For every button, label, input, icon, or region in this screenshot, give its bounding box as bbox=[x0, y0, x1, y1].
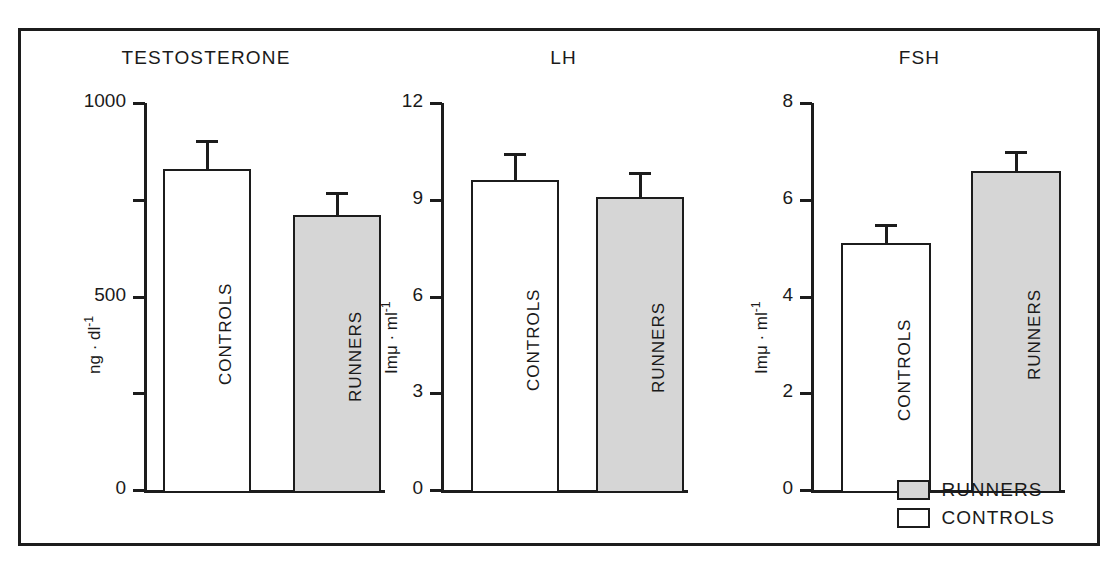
y-tick-label-lh-9: 9 bbox=[353, 187, 423, 209]
y-tick-label-fsh-8: 8 bbox=[723, 90, 793, 112]
y-tick-fsh-2 bbox=[800, 392, 812, 395]
plot-area-testosterone: 05001000ng · dl-1CONTROLSRUNNERS bbox=[21, 31, 391, 549]
y-axis-title-testosterone: ng · dl-1 bbox=[82, 316, 105, 374]
y-minortick-testosterone-250 bbox=[133, 392, 145, 395]
y-tick-label-testosterone-500: 500 bbox=[56, 284, 126, 306]
errorbar-cap-fsh-runners bbox=[1005, 151, 1027, 154]
y-tick-fsh-8 bbox=[800, 102, 812, 105]
y-tick-testosterone-0 bbox=[133, 489, 145, 492]
errorbar-cap-fsh-controls bbox=[875, 224, 897, 227]
y-tick-label-lh-12: 12 bbox=[353, 90, 423, 112]
legend-label-controls: CONTROLS bbox=[941, 507, 1055, 529]
legend-item-controls: CONTROLS bbox=[897, 507, 1055, 529]
y-tick-label-fsh-0: 0 bbox=[723, 477, 793, 499]
y-tick-lh-0 bbox=[430, 489, 442, 492]
errorbar-cap-testosterone-controls bbox=[196, 140, 218, 143]
panel-testosterone: TESTOSTERONE 05001000ng · dl-1CONTROLSRU… bbox=[21, 31, 391, 543]
bar-testosterone-runners bbox=[293, 215, 381, 493]
plot-area-fsh: 02468Imμ · ml-1CONTROLSRUNNERS bbox=[736, 31, 1103, 549]
bar-lh-controls bbox=[471, 180, 559, 493]
y-tick-testosterone-1000 bbox=[133, 102, 145, 105]
y-tick-label-testosterone-0: 0 bbox=[56, 477, 126, 499]
bar-label-fsh-controls: CONTROLS bbox=[895, 319, 915, 421]
y-tick-label-fsh-2: 2 bbox=[723, 380, 793, 402]
legend-item-runners: RUNNERS bbox=[897, 479, 1055, 501]
y-tick-lh-6 bbox=[430, 296, 442, 299]
y-tick-lh-3 bbox=[430, 392, 442, 395]
figure-frame: TESTOSTERONE 05001000ng · dl-1CONTROLSRU… bbox=[18, 28, 1100, 546]
panel-lh: LH 036912Imμ · ml-1CONTROLSRUNNERS bbox=[391, 31, 736, 543]
y-tick-lh-9 bbox=[430, 199, 442, 202]
errorbar-cap-testosterone-runners bbox=[326, 192, 348, 195]
y-tick-lh-12 bbox=[430, 102, 442, 105]
errorbar-stem-testosterone-runners bbox=[336, 192, 339, 215]
y-tick-label-lh-0: 0 bbox=[353, 477, 423, 499]
y-tick-fsh-0 bbox=[800, 489, 812, 492]
bar-label-testosterone-controls: CONTROLS bbox=[216, 283, 236, 385]
y-tick-fsh-4 bbox=[800, 296, 812, 299]
bar-fsh-runners bbox=[971, 171, 1061, 493]
bar-label-lh-runners: RUNNERS bbox=[649, 302, 669, 393]
y-tick-label-fsh-6: 6 bbox=[723, 187, 793, 209]
legend-swatch-controls-icon bbox=[897, 508, 930, 528]
panel-fsh: FSH 02468Imμ · ml-1CONTROLSRUNNERS bbox=[736, 31, 1103, 543]
bar-lh-runners bbox=[596, 197, 684, 493]
plot-area-lh: 036912Imμ · ml-1CONTROLSRUNNERS bbox=[391, 31, 736, 549]
bar-label-lh-controls: CONTROLS bbox=[524, 288, 544, 390]
legend-label-runners: RUNNERS bbox=[941, 479, 1042, 501]
figure-root: TESTOSTERONE 05001000ng · dl-1CONTROLSRU… bbox=[0, 0, 1117, 566]
legend: RUNNERS CONTROLS bbox=[897, 479, 1055, 529]
y-tick-testosterone-500 bbox=[133, 296, 145, 299]
y-minortick-testosterone-750 bbox=[133, 199, 145, 202]
bar-label-fsh-runners: RUNNERS bbox=[1025, 289, 1045, 380]
errorbar-cap-lh-runners bbox=[629, 172, 651, 175]
y-tick-fsh-6 bbox=[800, 199, 812, 202]
errorbar-cap-lh-controls bbox=[504, 153, 526, 156]
errorbar-stem-lh-controls bbox=[514, 153, 517, 180]
y-axis-title-fsh: Imμ · ml-1 bbox=[749, 301, 772, 374]
y-tick-label-testosterone-1000: 1000 bbox=[56, 90, 126, 112]
legend-swatch-runners-icon bbox=[897, 480, 930, 500]
bar-fsh-controls bbox=[841, 243, 931, 493]
y-axis-title-lh: Imμ · ml-1 bbox=[379, 301, 402, 374]
bar-testosterone-controls bbox=[163, 169, 251, 493]
y-tick-label-lh-3: 3 bbox=[353, 380, 423, 402]
errorbar-stem-testosterone-controls bbox=[206, 140, 209, 169]
errorbar-stem-lh-runners bbox=[639, 172, 642, 196]
